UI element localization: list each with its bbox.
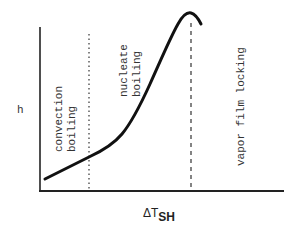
x-axis-label-subscript: SH — [158, 210, 175, 224]
region-label-convection-line1: convection — [53, 86, 65, 152]
y-axis-label: h — [17, 104, 24, 116]
region-label-vapor-film: vapor film locking — [235, 47, 247, 166]
boiling-curve-diagram: h convection boiling nucleate boiling va… — [0, 0, 297, 228]
region-label-convection-line2: boiling — [66, 106, 78, 152]
x-axis-label: ΔTSH — [143, 206, 175, 224]
region-label-nucleate-line2: boiling — [131, 51, 143, 97]
region-label-nucleate-line1: nucleate — [118, 44, 130, 97]
x-axis-label-main: ΔT — [143, 206, 159, 220]
